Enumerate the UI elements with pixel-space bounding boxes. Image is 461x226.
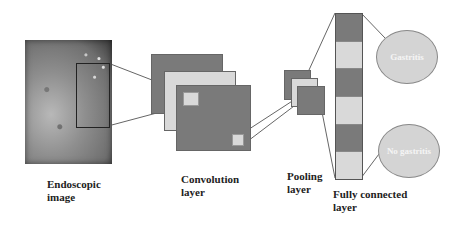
label-line: Pooling [287, 170, 322, 183]
fc-neuron [336, 69, 362, 97]
conv-kernel-patch [183, 92, 199, 106]
fc-neuron [336, 14, 362, 42]
label-line: Convolution [181, 173, 239, 186]
fully-connected-layer-label: Fully connected layer [333, 188, 407, 214]
fc-neuron [336, 97, 362, 125]
convolution-layer-label: Convolution layer [181, 173, 239, 199]
output-label: No gastritis [387, 146, 431, 156]
label-line: Fully connected [333, 188, 407, 201]
pool-map-3 [297, 86, 325, 115]
output-label: Gastritis [390, 52, 424, 62]
output-no-gastritis: No gastritis [378, 124, 440, 178]
fully-connected-column [335, 13, 363, 180]
endoscopic-image-label: Endoscopic image [47, 178, 101, 204]
fc-neuron [336, 152, 362, 179]
label-line: Endoscopic [47, 178, 101, 191]
label-line: layer [181, 186, 239, 199]
output-gastritis: Gastritis [376, 30, 438, 84]
label-line: image [47, 191, 101, 204]
region-of-interest-box [76, 63, 110, 128]
fc-neuron [336, 42, 362, 70]
pooling-layer-label: Pooling layer [287, 170, 322, 196]
conv-output-patch [232, 134, 244, 146]
fc-neuron [336, 125, 362, 153]
label-line: layer [287, 183, 322, 196]
label-line: layer [333, 201, 407, 214]
